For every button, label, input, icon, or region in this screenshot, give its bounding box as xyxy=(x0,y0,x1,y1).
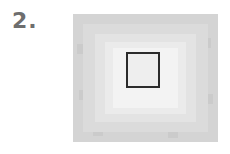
center-outline-box xyxy=(126,52,160,88)
figure-label: 2. xyxy=(12,8,38,33)
